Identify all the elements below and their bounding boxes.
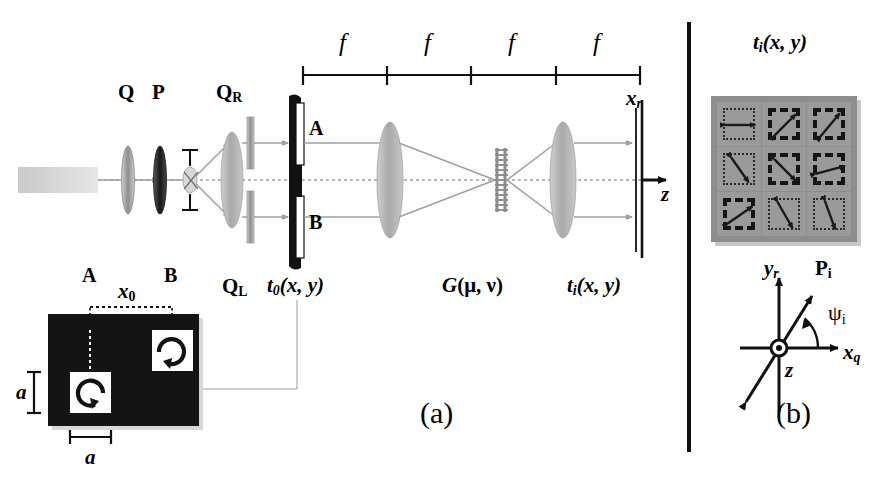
focal-label-4: f [593, 30, 600, 55]
label-optic-axis-z: z [661, 184, 669, 205]
label-object-transmittance: t0(x, y) [267, 275, 324, 298]
panel-b-label-xq: xq [843, 342, 860, 365]
pi-subscript: i [828, 266, 832, 281]
inset-label-b: B [164, 265, 177, 285]
grating-element [495, 148, 508, 212]
polarization-cell [717, 102, 761, 146]
label-image-transmittance: ti(x, y) [567, 275, 621, 298]
panel-b-label-pi: Pi [815, 258, 832, 281]
label-screen-axis-xr: xr [626, 88, 642, 111]
fourier-lens-1 [377, 122, 403, 238]
xq-base: x [843, 340, 854, 364]
psi-subscript: i [842, 311, 846, 327]
x0-subscript: 0 [129, 289, 136, 304]
focal-label-2: f [424, 30, 431, 55]
xq-subscript: q [854, 350, 861, 365]
label-waveplate-qr: QR [216, 82, 242, 105]
polarization-arrow [762, 147, 808, 193]
collimating-lens [221, 132, 243, 228]
inset-label-x0: x0 [118, 281, 135, 304]
qr-base: Q [216, 80, 232, 104]
label-aperture-a: A [309, 118, 323, 138]
inset-label-height-a: a [16, 382, 27, 403]
label-waveplate-ql: QL [222, 276, 248, 299]
psi-base: ψ [828, 300, 842, 325]
polarization-arrow [762, 192, 808, 238]
xr-base: x [626, 86, 637, 110]
panelb-ti-args: (x, y) [763, 30, 807, 54]
polarization-arrow [807, 102, 853, 148]
ql-base: Q [222, 274, 238, 298]
panel-b-label-yr: yr [764, 258, 779, 281]
label-aperture-b: B [309, 212, 322, 232]
pi-base: P [815, 256, 828, 280]
figure-root: f f f f Q P QR A B QL t0(x, y) G(μ, ν) t… [0, 0, 894, 482]
ql-subscript: L [238, 284, 247, 299]
polarization-cell [762, 192, 806, 236]
inset-width-dimension [70, 430, 111, 444]
t0-args: (x, y) [280, 273, 324, 297]
yr-base: y [764, 256, 773, 280]
inset-label-width-a: a [85, 447, 96, 468]
polarization-arrow [717, 192, 763, 238]
object-mask-plate [289, 94, 304, 269]
focal-label-1: f [339, 30, 346, 55]
caption-panel-b: (b) [776, 398, 811, 428]
input-beam [18, 167, 98, 193]
panel-b-label-z: z [785, 360, 793, 381]
caption-panel-a: (a) [420, 398, 453, 428]
double-aperture-stop [182, 150, 198, 210]
polarizer-p [154, 146, 167, 214]
polarization-arrow [807, 147, 853, 193]
polarization-cell [807, 102, 851, 146]
x0-base: x [118, 279, 129, 303]
label-grating: G(μ, ν) [442, 275, 503, 296]
t0-subscript: 0 [273, 283, 280, 298]
xr-subscript: r [637, 96, 642, 111]
polarization-cell [717, 147, 761, 191]
polarization-arrow [807, 192, 853, 238]
focal-length-scale [303, 66, 640, 85]
panel-b-title: ti(x, y) [753, 32, 807, 55]
polarization-arrow [762, 102, 808, 148]
grating-base: G [442, 273, 457, 297]
polarization-cell [717, 192, 761, 236]
polarization-arrow [717, 102, 763, 148]
focal-label-3: f [508, 30, 515, 55]
polarization-grid [711, 96, 857, 242]
label-waveplate-q: Q [118, 82, 134, 103]
inset-height-dimension [27, 372, 41, 413]
polarization-cell [762, 147, 806, 191]
polarization-cell [762, 102, 806, 146]
inset-label-a: A [82, 265, 96, 285]
fourier-lens-2 [550, 122, 576, 238]
panel-b-label-psi: ψi [828, 302, 846, 326]
qr-subscript: R [232, 90, 242, 105]
polarization-arrow [717, 147, 763, 193]
panel-b-axes [740, 278, 838, 412]
waveplate-q [122, 146, 135, 214]
polarization-cell [807, 147, 851, 191]
grating-args: (μ, ν) [457, 273, 503, 297]
label-polarizer-p: P [152, 82, 165, 103]
ti-args: (x, y) [577, 273, 621, 297]
polarization-cell [807, 192, 851, 236]
yr-subscript: r [773, 266, 778, 281]
object-mask-inset [27, 307, 203, 444]
